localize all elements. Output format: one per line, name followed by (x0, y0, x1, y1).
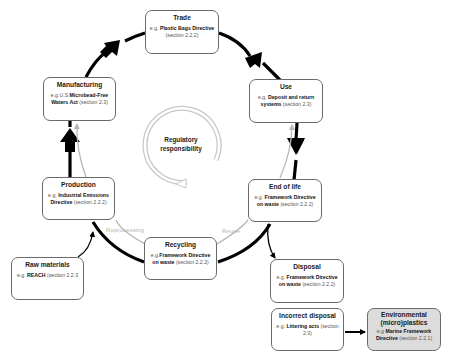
node-title: Environmental (micro)plastics (370, 311, 438, 327)
node-title: Manufacturing (46, 81, 113, 89)
eg-prefix: e.g. (258, 94, 268, 100)
eg-prefix: e.g. (276, 323, 286, 329)
node-description: e.g. Deposit and return systems (section… (252, 94, 320, 108)
node-description: e.g. REACH (section 2.2.3 (14, 272, 81, 279)
eg-prefix: e.g. (17, 272, 27, 278)
node-title: Production (45, 181, 112, 189)
node-description: e.g. Industrial Emissions Directive (sec… (45, 192, 112, 206)
node-raw-materials[interactable]: Raw materials e.g. REACH (section 2.2.3 (11, 257, 84, 300)
node-description: e.g. Littering acts (section 2.3) (274, 323, 341, 337)
reprocessing-label: Reprocessing (106, 226, 144, 233)
node-manufacturing[interactable]: Manufacturing e.g.U.S Microbead-Free Wat… (43, 77, 116, 121)
eg-prefix: e.g. (276, 274, 286, 280)
eg-prefix: e.g.U.S (51, 92, 70, 98)
reuse-label: Reuse (222, 227, 240, 234)
section-ref: (section 2.2.2) (280, 201, 313, 207)
node-title: Use (252, 83, 320, 91)
regulatory-responsibility-label: Regulatory responsibility (148, 135, 214, 153)
section-ref: (section 2.2.2) (302, 281, 335, 287)
section-ref: (section 2.2.3 (47, 272, 78, 278)
law-name: Littering acts (286, 323, 319, 329)
node-recycling[interactable]: Recycling e.g.Framework Directive on was… (144, 237, 217, 280)
section-ref: (section 2.2.2) (166, 32, 199, 38)
node-description: e.g Marine Framework Directive (section … (370, 328, 438, 342)
node-title: Trade (148, 14, 216, 22)
eg-prefix: e.g. (150, 25, 160, 31)
section-ref: (section 2.3) (79, 99, 108, 105)
node-production[interactable]: Production e.g. Industrial Emissions Dir… (42, 177, 115, 220)
section-ref: (section 2.2.1) (399, 335, 432, 341)
node-end-of-life[interactable]: End of life e.g. Framework Directive on … (248, 179, 322, 222)
node-title: End of life (251, 183, 319, 191)
law-name: Plastic Bags Directive (160, 25, 214, 31)
eg-prefix: e.g. (254, 194, 264, 200)
node-title: Recycling (147, 241, 214, 249)
node-incorrect-disposal[interactable]: Incorrect disposal e.g. Littering acts (… (271, 308, 344, 351)
section-ref: (section 2.2.2) (74, 199, 107, 205)
eg-prefix: e.g. (48, 192, 58, 198)
section-ref: (section 2.3) (283, 101, 312, 107)
eg-prefix: e.g. (151, 252, 160, 258)
node-title: Incorrect disposal (274, 312, 341, 320)
section-ref: (section 2.2.2) (176, 259, 209, 265)
node-title: Disposal (273, 263, 341, 271)
node-description: e.g.Framework Directive on waste (sectio… (147, 252, 214, 266)
node-environmental-microplastics[interactable]: Environmental (micro)plastics e.g Marine… (367, 308, 441, 351)
law-name: REACH (27, 272, 45, 278)
center-label-line1: Regulatory (148, 135, 214, 144)
node-use[interactable]: Use e.g. Deposit and return systems (sec… (249, 79, 323, 123)
node-disposal[interactable]: Disposal e.g. Framework Directive on was… (270, 259, 344, 303)
node-description: e.g. Framework Directive on waste (secti… (273, 274, 341, 288)
node-trade[interactable]: Trade e.g. Plastic Bags Directive (secti… (145, 10, 219, 54)
node-description: e.g. Plastic Bags Directive (section 2.2… (148, 25, 216, 39)
node-title: Raw materials (14, 261, 81, 269)
center-label-line2: responsibility (148, 144, 214, 153)
node-description: e.g. Framework Directive on waste (secti… (251, 194, 319, 208)
node-description: e.g.U.S Microbead-Free Waters Act (secti… (46, 92, 113, 106)
